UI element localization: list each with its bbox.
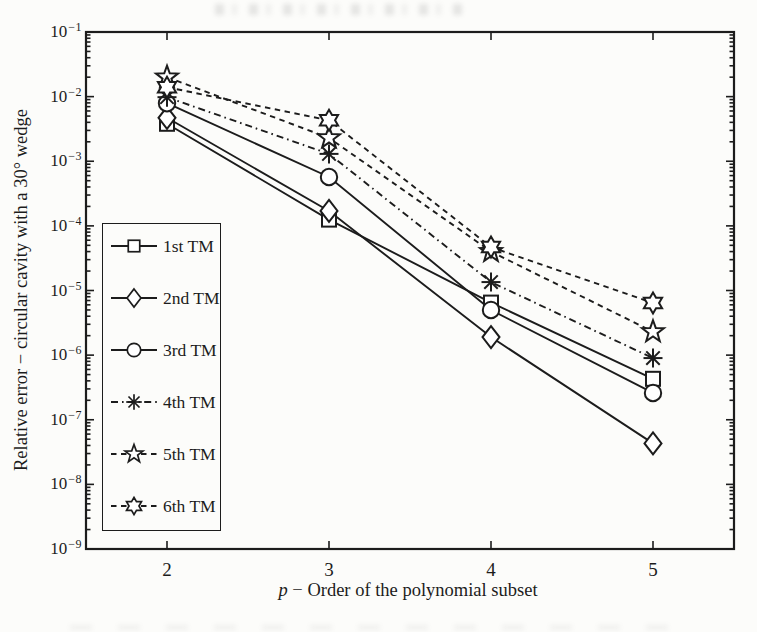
legend-star6-icon [127,497,142,514]
star6-marker-6th-tm [158,77,176,98]
legend-item-2nd-tm: 2nd TM [103,284,220,312]
x-tick-label: 4 [473,559,509,581]
x-axis-label-text: − Order of the polynomial subset [288,580,538,600]
legend-item-1st-tm: 1st TM [103,232,220,260]
legend-item-6th-tm: 6th TM [103,492,220,520]
series-line-5th-tm [167,77,653,332]
legend-sample [110,336,158,364]
legend-circle-icon [127,343,140,356]
circle-marker-3rd-tm [321,169,337,185]
x-tick-label: 2 [149,559,185,581]
star6-marker-6th-tm [644,293,662,314]
legend-label: 3rd TM [163,340,217,360]
y-axis-label: Relative error − circular cavity with a … [11,109,32,471]
x-axis-label-variable: p [278,580,287,600]
legend-label: 4th TM [163,392,216,412]
circle-marker-3rd-tm [483,302,499,318]
legend: 1st TM2nd TM3rd TM4th TM5th TM6th TM [102,223,221,531]
legend-label: 2nd TM [163,288,220,308]
legend-item-4th-tm: 4th TM [103,388,220,416]
x-tick-label: 5 [635,559,671,581]
y-tick-label: 10−9 [20,538,82,561]
legend-square-icon [128,240,139,251]
diamond-marker-2nd-tm [483,326,500,348]
star6-marker-6th-tm [320,110,338,131]
figure: 10−110−210−310−410−510−610−710−810−9 234… [0,0,757,632]
legend-item-5th-tm: 5th TM [103,440,220,468]
legend-label: 6th TM [163,496,216,516]
series-line-1st-tm [167,124,653,379]
legend-star5-icon [125,445,143,462]
legend-sample [110,388,158,416]
legend-sample [110,440,158,468]
y-tick-label: 10−1 [20,21,82,44]
legend-label: 5th TM [163,444,216,464]
circle-marker-3rd-tm [645,385,661,401]
legend-label: 1st TM [163,236,214,256]
square-marker-1st-tm [646,372,660,386]
series-line-3rd-tm [167,103,653,393]
star6-marker-6th-tm [482,237,500,258]
x-axis-label: p − Order of the polynomial subset [278,580,537,601]
star5-marker-5th-tm [642,320,664,341]
legend-sample [110,284,158,312]
legend-sample [110,492,158,520]
diamond-marker-2nd-tm [645,432,662,454]
legend-diamond-icon [127,289,141,307]
legend-sample [110,232,158,260]
legend-item-3rd-tm: 3rd TM [103,336,220,364]
y-tick-label: 10−2 [20,86,82,109]
x-tick-label: 3 [311,559,347,581]
y-tick-label: 10−8 [20,473,82,496]
